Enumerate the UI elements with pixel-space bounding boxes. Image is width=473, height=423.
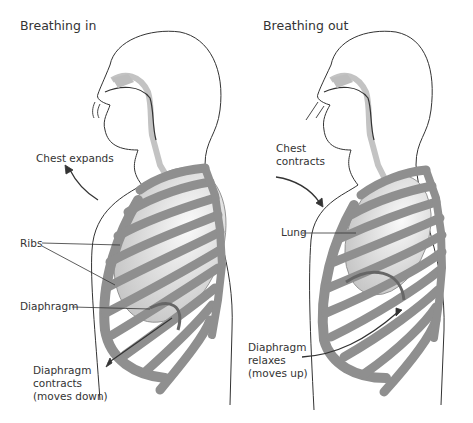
label-diaphragm-contracts: Diaphragm contracts (moves down): [33, 364, 108, 403]
title-breathing-out: Breathing out: [263, 18, 348, 33]
airway-icon: [331, 76, 388, 185]
label-chest-contracts: Chest contracts: [276, 142, 325, 168]
airway-icon: [112, 76, 172, 185]
label-ribs: Ribs: [20, 237, 42, 250]
label-chest-expands: Chest expands: [36, 152, 114, 165]
breathing-in-illustration: [0, 0, 236, 423]
label-diaphragm-relaxes: Diaphragm relaxes (moves up): [248, 341, 308, 380]
panel-breathing-in: Breathing in Chest expands Ribs Diaphrag…: [0, 0, 236, 423]
label-lung: Lung: [281, 226, 307, 239]
title-breathing-in: Breathing in: [20, 18, 96, 33]
label-diaphragm: Diaphragm: [20, 300, 78, 313]
panel-breathing-out: Breathing out Chest contracts Lung Diaph…: [236, 0, 472, 423]
